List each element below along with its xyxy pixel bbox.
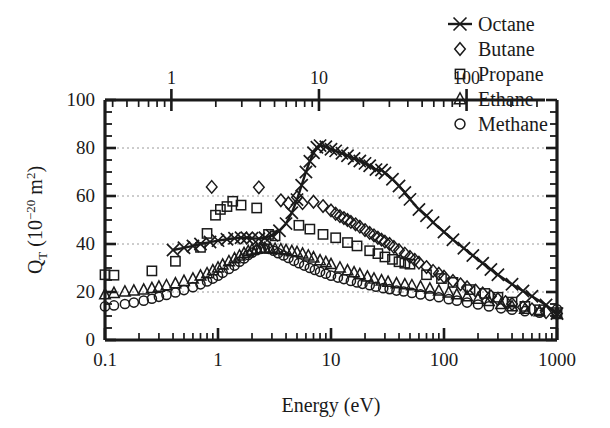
legend-item-methane[interactable]: Methane bbox=[455, 113, 548, 135]
data-point-cross bbox=[280, 217, 292, 229]
data-point-cross bbox=[506, 278, 518, 290]
axis-frame bbox=[105, 100, 557, 340]
data-point-square bbox=[109, 271, 118, 280]
data-point-diamond bbox=[206, 181, 217, 193]
data-point-square bbox=[352, 241, 361, 250]
data-point-cross bbox=[467, 249, 479, 261]
legend-label-octane: Octane bbox=[478, 13, 535, 35]
data-point-circle bbox=[300, 261, 309, 270]
x-axis-title: Energy (eV) bbox=[281, 394, 380, 417]
y-tick-label: 0 bbox=[86, 329, 96, 350]
data-point-circle bbox=[129, 298, 138, 307]
figure-container: 0204060801000.11101001000110100Energy (e… bbox=[0, 0, 610, 428]
y-tick-label: 80 bbox=[76, 137, 95, 158]
data-point-square bbox=[147, 266, 156, 275]
data-point-circle bbox=[179, 285, 188, 294]
data-point-circle bbox=[120, 299, 129, 308]
data-point-cross bbox=[427, 216, 439, 228]
legend-label-ethane: Ethane bbox=[478, 88, 534, 110]
series-octane bbox=[167, 139, 563, 319]
data-point-cross bbox=[300, 166, 312, 178]
data-point-circle bbox=[462, 298, 471, 307]
x-tick-label: 10 bbox=[322, 349, 341, 370]
data-point-cross bbox=[296, 179, 308, 191]
legend-label-propane: Propane bbox=[478, 63, 544, 86]
y-axis-title: QT (10−20 m2) bbox=[23, 166, 50, 274]
data-point-cross bbox=[413, 203, 425, 215]
data-point-square bbox=[331, 233, 340, 242]
data-point-square bbox=[294, 221, 303, 230]
data-point-triangle bbox=[179, 275, 190, 285]
data-point-square bbox=[318, 230, 327, 239]
data-point-square bbox=[171, 257, 180, 266]
x-top-tick-label: 1 bbox=[167, 68, 176, 88]
data-point-circle bbox=[473, 300, 482, 309]
y-tick-label: 40 bbox=[76, 233, 95, 254]
x-tick-label: 1000 bbox=[538, 349, 576, 370]
legend-item-butane[interactable]: Butane bbox=[455, 38, 535, 60]
y-tick-label: 100 bbox=[67, 89, 96, 110]
data-point-circle bbox=[109, 301, 118, 310]
y-tick-label: 20 bbox=[76, 281, 95, 302]
legend-label-methane: Methane bbox=[478, 113, 548, 135]
data-point-cross bbox=[359, 157, 371, 169]
data-point-square bbox=[305, 224, 314, 233]
data-point-cross bbox=[492, 269, 504, 281]
data-point-cross bbox=[485, 263, 497, 275]
x-top-tick-label: 10 bbox=[310, 68, 328, 88]
data-point-circle bbox=[484, 302, 493, 311]
legend-label-butane: Butane bbox=[478, 38, 535, 60]
x-tick-label: 100 bbox=[430, 349, 459, 370]
data-point-diamond bbox=[254, 181, 265, 193]
data-point-cross bbox=[438, 226, 450, 238]
data-point-triangle bbox=[129, 285, 140, 295]
y-axis-title-text: QT (10−20 m2) bbox=[23, 166, 50, 274]
legend-item-octane[interactable]: Octane bbox=[448, 13, 535, 35]
cross-section-chart: 0204060801000.11101001000110100Energy (e… bbox=[0, 0, 610, 428]
x-tick-label: 1 bbox=[213, 349, 223, 370]
data-point-circle bbox=[455, 119, 465, 129]
data-point-cross bbox=[379, 167, 391, 179]
data-point-circle bbox=[434, 293, 443, 302]
data-point-cross bbox=[477, 257, 489, 269]
y-axis-ticks bbox=[105, 100, 557, 340]
x-axis-bottom-ticks bbox=[105, 328, 557, 340]
y-tick-label: 60 bbox=[76, 185, 95, 206]
data-point-square bbox=[422, 270, 431, 279]
data-point-square bbox=[252, 203, 261, 212]
data-point-square bbox=[343, 238, 352, 247]
x-tick-label: 0.1 bbox=[93, 349, 117, 370]
data-point-cross bbox=[325, 143, 337, 155]
data-point-diamond bbox=[455, 43, 466, 55]
data-point-cross bbox=[399, 186, 411, 198]
data-point-triangle bbox=[170, 278, 181, 288]
